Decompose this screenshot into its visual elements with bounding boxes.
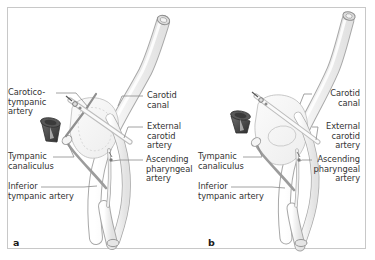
label-line: Ascending — [317, 154, 360, 164]
label-external-carotid-artery-b: Externalcarotidartery — [316, 122, 360, 151]
label-inferior-tympanic-artery-a: Inferiortympanic artery — [8, 182, 88, 201]
label-line: Carotico- — [8, 87, 45, 97]
common-carotid-cut-end-b — [295, 240, 307, 247]
label-caroticotympanic-artery-a: Carotico-tympanicartery — [8, 88, 56, 117]
label-line: artery — [147, 140, 172, 150]
label-line: External — [147, 121, 181, 131]
label-inferior-tympanic-artery-b: Inferiortympanic artery — [198, 182, 278, 201]
label-line: pharyngeal — [146, 164, 192, 174]
label-line: Tympanic — [198, 151, 237, 161]
label-line: artery — [335, 173, 360, 183]
label-line: tympanic — [8, 97, 46, 107]
label-ascending-pharyngeal-artery-a: Ascendingpharyngealartery — [146, 155, 192, 184]
label-tympanic-canaliculus-a: Tympaniccanaliculus — [8, 152, 60, 171]
probe-node-b — [259, 98, 264, 103]
panel-letter-b: b — [208, 237, 215, 248]
label-line: canaliculus — [8, 161, 54, 171]
common-carotid-cut-end-a — [107, 239, 119, 246]
label-line: tympanic artery — [8, 191, 74, 201]
label-line: tympanic artery — [198, 191, 264, 201]
label-line: artery — [335, 140, 360, 150]
label-line: canal — [338, 98, 360, 108]
label-line: carotid — [332, 131, 360, 141]
label-carotid-canal-a: Carotidcanal — [147, 91, 189, 110]
label-line: canal — [147, 100, 169, 110]
label-ascending-pharyngeal-artery-b: Ascendingpharyngealartery — [312, 155, 360, 184]
label-line: canaliculus — [198, 161, 244, 171]
label-line: Tympanic — [8, 151, 47, 161]
probe-node-a — [73, 102, 78, 107]
label-line: Carotid — [147, 90, 177, 100]
probe-node-b-2 — [265, 103, 268, 106]
label-line: Ascending — [146, 154, 189, 164]
label-line: artery — [8, 106, 33, 116]
label-line: Carotid — [330, 88, 360, 98]
label-tympanic-canaliculus-b: Tympaniccanaliculus — [198, 152, 250, 171]
label-line: pharyngeal — [314, 164, 360, 174]
label-line: External — [326, 121, 360, 131]
probe-node-a-2 — [78, 106, 81, 109]
panel-letter-a: a — [13, 237, 19, 248]
label-external-carotid-artery-a: Externalcarotidartery — [147, 122, 189, 151]
figure-container: Carotico-tympanicartery Tympaniccanalicu… — [0, 0, 375, 260]
label-line: artery — [146, 173, 171, 183]
leader-external-carotid-a — [124, 127, 143, 138]
label-line: Inferior — [8, 181, 38, 191]
label-line: Inferior — [198, 181, 228, 191]
label-carotid-canal-b: Carotidcanal — [316, 89, 360, 108]
label-line: carotid — [147, 131, 175, 141]
